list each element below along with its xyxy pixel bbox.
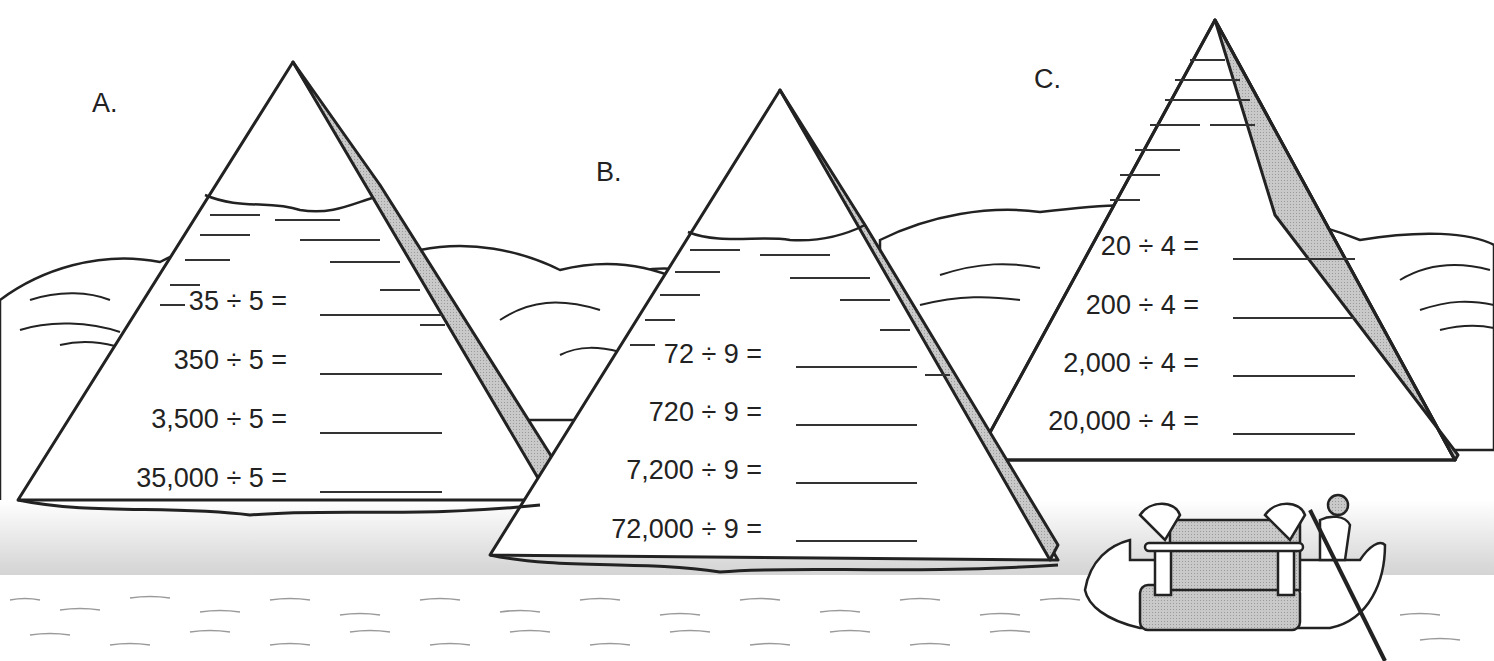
problem-expression: 35,000 ÷ 5 = — [136, 463, 287, 494]
answer-blank[interactable] — [320, 314, 442, 316]
problem-expression: 2,000 ÷ 4 = — [1063, 348, 1199, 379]
problem-expression: 200 ÷ 4 = — [1086, 290, 1199, 321]
problem-expression: 7,200 ÷ 9 = — [626, 455, 762, 486]
answer-blank[interactable] — [1233, 258, 1355, 260]
answer-blank[interactable] — [320, 491, 442, 493]
answer-blank[interactable] — [1233, 317, 1355, 319]
answer-blank[interactable] — [1233, 375, 1355, 377]
answer-blank[interactable] — [796, 482, 917, 484]
answer-blank[interactable] — [320, 373, 442, 375]
problem-expression: 72,000 ÷ 9 = — [611, 514, 762, 545]
problem-expression: 3,500 ÷ 5 = — [151, 404, 287, 435]
answer-blank[interactable] — [320, 432, 442, 434]
answer-blank[interactable] — [796, 424, 917, 426]
pyramid-c-label: C. — [1034, 64, 1061, 95]
problem-expression: 720 ÷ 9 = — [649, 397, 762, 428]
answer-blank[interactable] — [796, 366, 917, 368]
problem-expression: 350 ÷ 5 = — [174, 345, 287, 376]
answer-blank[interactable] — [1233, 433, 1355, 435]
pyramid-scene-illustration — [0, 0, 1494, 661]
problem-expression: 20,000 ÷ 4 = — [1048, 406, 1199, 437]
pyramid-b-label: B. — [596, 157, 622, 188]
pyramid-a-label: A. — [92, 88, 118, 119]
problem-expression: 35 ÷ 5 = — [189, 286, 287, 317]
problem-expression: 20 ÷ 4 = — [1101, 231, 1199, 262]
answer-blank[interactable] — [796, 540, 917, 542]
problem-expression: 72 ÷ 9 = — [664, 339, 762, 370]
